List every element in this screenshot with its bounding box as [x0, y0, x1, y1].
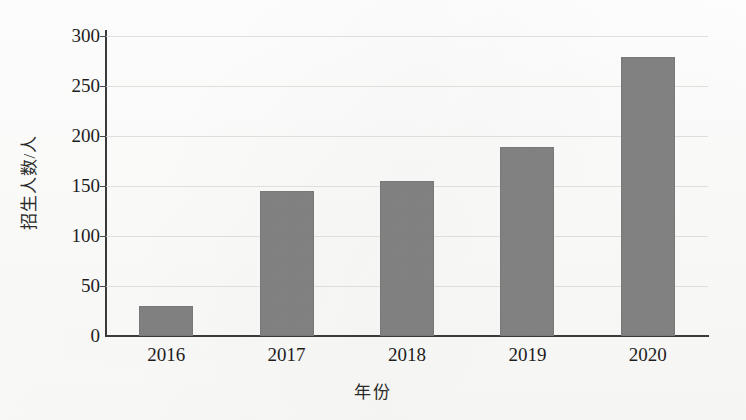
gridline-250 — [106, 86, 708, 87]
y-axis-tick-label-group: 0 50 100 150 200 250 300 — [46, 0, 100, 420]
gridline-200 — [106, 136, 708, 137]
bar-2016[interactable] — [139, 306, 193, 336]
plot-area — [106, 35, 708, 336]
y-tick-label-50: 50 — [52, 275, 100, 297]
y-tick-label-200: 200 — [52, 125, 100, 147]
gridline-300 — [106, 36, 708, 37]
y-tick-label-150: 150 — [52, 175, 100, 197]
y-axis-title: 招生人数/人 — [15, 103, 40, 263]
bar-2019[interactable] — [500, 147, 554, 336]
x-tick-label-2020: 2020 — [603, 344, 693, 366]
y-tick-label-300: 300 — [52, 25, 100, 47]
x-tick-label-2018: 2018 — [362, 344, 452, 366]
bar-2020[interactable] — [621, 57, 675, 336]
y-tick-label-0: 0 — [52, 325, 100, 347]
x-tick-label-2016: 2016 — [121, 344, 211, 366]
bar-chart-figure: 招生人数/人 0 50 100 150 200 250 300 2016 201… — [0, 0, 746, 420]
y-tick-label-100: 100 — [52, 225, 100, 247]
x-axis-tick-label-group: 2016 2017 2018 2019 2020 — [106, 344, 708, 374]
x-tick-label-2019: 2019 — [482, 344, 572, 366]
x-tick-label-2017: 2017 — [242, 344, 332, 366]
x-axis-title: 年份 — [0, 378, 746, 403]
bar-2018[interactable] — [380, 181, 434, 337]
y-tick-label-250: 250 — [52, 75, 100, 97]
bar-2017[interactable] — [260, 191, 314, 337]
